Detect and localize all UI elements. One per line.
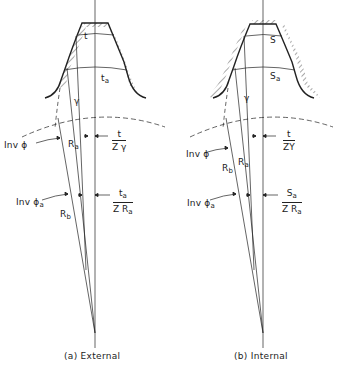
label-radius-b: Rb	[222, 163, 233, 176]
label-inv-phi: Inv ϕ	[4, 140, 27, 150]
caption-internal: (b) Internal	[234, 351, 288, 361]
label-tooth-thickness: S	[270, 35, 276, 45]
fraction-t-over-z-gamma: t Z γ	[112, 129, 126, 152]
gear-tooth-diagram	[0, 0, 339, 372]
fraction-sa-over-z-ra: Sa Z Ra	[282, 188, 302, 217]
label-radius-b: Rb	[60, 209, 71, 222]
label-pitch-radius: γ	[74, 96, 80, 106]
label-radius-a: Ra	[238, 157, 249, 170]
fraction-t-over-zy: t ZY	[283, 129, 295, 152]
label-pitch-radius: γ	[244, 93, 250, 103]
fraction-ta-over-z-ra: ta Z Ra	[113, 188, 133, 217]
label-tooth-thickness: t	[84, 31, 88, 41]
external-gear-panel	[22, 0, 165, 348]
label-inv-phi: Inv ϕ	[186, 149, 209, 159]
internal-gear-panel	[190, 0, 333, 348]
label-radius-a: Ra	[68, 139, 79, 152]
caption-external: (a) External	[64, 351, 120, 361]
label-tooth-thickness-a: ta	[101, 73, 109, 86]
label-inv-phi-a: Inv ϕa	[187, 198, 215, 211]
tooth-outline	[45, 23, 146, 98]
label-tooth-thickness-a: Sa	[270, 71, 280, 84]
label-inv-phi-a: Inv ϕa	[16, 197, 44, 210]
